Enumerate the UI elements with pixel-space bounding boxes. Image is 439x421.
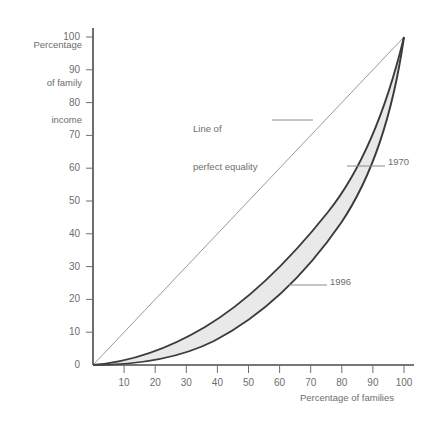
x-tick-label-100: 100 (391, 377, 417, 388)
x-tick-label-60: 60 (267, 377, 293, 388)
y-axis-title-line2: of family (4, 77, 82, 90)
x-tick-label-30: 30 (173, 377, 199, 388)
y-tick-label-50: 50 (50, 195, 80, 206)
x-tick-label-40: 40 (204, 377, 230, 388)
y-tick-label-90: 90 (50, 64, 80, 75)
x-tick-label-50: 50 (236, 377, 262, 388)
x-tick-label-70: 70 (298, 377, 324, 388)
equality-line-label-line2: perfect equality (193, 161, 257, 174)
x-axis-title: Percentage of families (300, 392, 394, 405)
y-tick-label-70: 70 (50, 129, 80, 140)
y-tick-label-60: 60 (50, 162, 80, 173)
y-tick-label-20: 20 (50, 293, 80, 304)
y-tick-label-100: 100 (50, 31, 80, 42)
x-tick-label-10: 10 (111, 377, 137, 388)
x-tick-label-20: 20 (142, 377, 168, 388)
year-1996-label: 1996 (330, 276, 351, 289)
equality-line-label-line1: Line of (193, 123, 257, 136)
x-tick-label-80: 80 (329, 377, 355, 388)
x-tick-label-90: 90 (360, 377, 386, 388)
y-tick-label-40: 40 (50, 228, 80, 239)
y-tick-label-80: 80 (50, 97, 80, 108)
y-tick-label-0: 0 (50, 359, 80, 370)
y-axis-ticks (86, 37, 93, 332)
year-1970-label: 1970 (388, 156, 409, 169)
x-axis-ticks (124, 365, 404, 373)
y-axis-title-line3: income (4, 114, 82, 127)
lorenz-curve-chart: Percentage of family income Percentage o… (0, 0, 439, 421)
y-tick-label-30: 30 (50, 261, 80, 272)
y-tick-label-10: 10 (50, 326, 80, 337)
equality-line-label: Line of perfect equality (193, 98, 257, 198)
